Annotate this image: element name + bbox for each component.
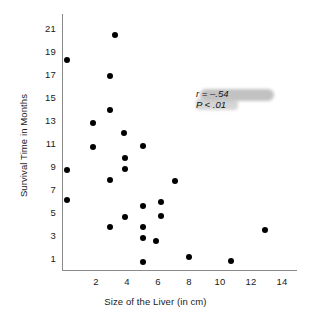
data-point bbox=[107, 107, 113, 113]
y-tick-label: 1 bbox=[51, 254, 56, 264]
correlation-value: r = –.54 bbox=[196, 88, 228, 99]
y-tick-label: 15 bbox=[45, 93, 56, 103]
x-axis-title: Size of the Liver (in cm) bbox=[0, 296, 311, 307]
data-point bbox=[64, 167, 70, 173]
y-tick-label: 17 bbox=[45, 70, 56, 80]
data-point bbox=[64, 197, 70, 203]
data-point bbox=[140, 143, 146, 149]
data-point bbox=[186, 254, 192, 260]
x-tick-label: 14 bbox=[272, 277, 292, 287]
x-tick-label: 8 bbox=[179, 277, 199, 287]
x-tick-label: 12 bbox=[241, 277, 261, 287]
data-point bbox=[107, 73, 113, 79]
data-point bbox=[90, 120, 96, 126]
y-tick-label: 3 bbox=[51, 231, 56, 241]
pvalue-text: P < .01 bbox=[196, 99, 226, 110]
data-point bbox=[158, 213, 164, 219]
x-axis-line bbox=[62, 270, 297, 271]
data-point bbox=[121, 130, 127, 136]
y-tick-label: 5 bbox=[51, 208, 56, 218]
plot-data-area bbox=[62, 14, 297, 270]
data-point bbox=[64, 57, 70, 63]
y-tick-label: 21 bbox=[45, 24, 56, 34]
data-point bbox=[122, 155, 128, 161]
data-point bbox=[153, 238, 159, 244]
data-point bbox=[140, 259, 146, 265]
x-axis-tick-labels: 2468101214 bbox=[0, 277, 311, 291]
x-tick-label: 4 bbox=[117, 277, 137, 287]
data-point bbox=[90, 144, 96, 150]
data-point bbox=[140, 235, 146, 241]
y-axis-title: Survival Time in Months bbox=[18, 61, 29, 231]
x-tick-label: 6 bbox=[148, 277, 168, 287]
data-point bbox=[122, 214, 128, 220]
data-point bbox=[172, 178, 178, 184]
data-point bbox=[122, 166, 128, 172]
y-tick-label: 13 bbox=[45, 116, 56, 126]
statistics-annotation: r = –.54 P < .01 bbox=[196, 88, 276, 116]
data-point bbox=[107, 224, 113, 230]
y-tick-label: 11 bbox=[46, 139, 56, 149]
data-point bbox=[262, 227, 268, 233]
data-point bbox=[228, 258, 234, 264]
data-point bbox=[140, 224, 146, 230]
scatter-plot-figure: 13579111315171921 2468101214 r = –.54 P … bbox=[0, 0, 311, 324]
y-tick-label: 19 bbox=[45, 47, 56, 57]
x-tick-label: 10 bbox=[210, 277, 230, 287]
x-tick-label: 2 bbox=[86, 277, 106, 287]
data-point bbox=[158, 199, 164, 205]
y-tick-label: 9 bbox=[51, 162, 56, 172]
y-tick-label: 7 bbox=[51, 185, 56, 195]
data-point bbox=[107, 177, 113, 183]
data-point bbox=[112, 32, 118, 38]
data-point bbox=[140, 203, 146, 209]
